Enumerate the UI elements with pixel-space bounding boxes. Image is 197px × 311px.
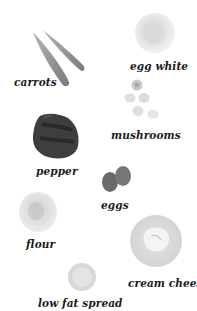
mushrooms-label: mushrooms bbox=[111, 129, 181, 141]
egg-white-bowl-icon bbox=[134, 12, 176, 54]
flour-label: flour bbox=[26, 238, 55, 250]
eggs-image bbox=[100, 164, 134, 194]
mushrooms-image bbox=[122, 78, 164, 120]
low-fat-spread-label: low fat spread bbox=[38, 297, 123, 309]
eggs-icon bbox=[100, 164, 134, 194]
carrots-label: carrots bbox=[14, 76, 57, 88]
ingredients-illustration: carrots egg white mushrooms bbox=[0, 0, 197, 311]
low-fat-spread-tub-icon bbox=[67, 262, 97, 292]
flour-image bbox=[18, 191, 58, 233]
flour-bowl-icon bbox=[18, 191, 58, 233]
cream-cheese-image bbox=[129, 214, 183, 268]
egg-white-image bbox=[134, 12, 176, 54]
pepper-image bbox=[30, 110, 82, 162]
eggs-label: eggs bbox=[101, 199, 129, 211]
pepper-label: pepper bbox=[36, 165, 78, 177]
cream-cheese-bowl-icon bbox=[129, 214, 183, 268]
cream-cheese-label: cream cheese bbox=[128, 277, 197, 289]
egg-white-label: egg white bbox=[130, 60, 188, 72]
low-fat-spread-image bbox=[67, 262, 97, 292]
pepper-icon bbox=[30, 110, 82, 162]
mushrooms-icon bbox=[122, 78, 164, 120]
